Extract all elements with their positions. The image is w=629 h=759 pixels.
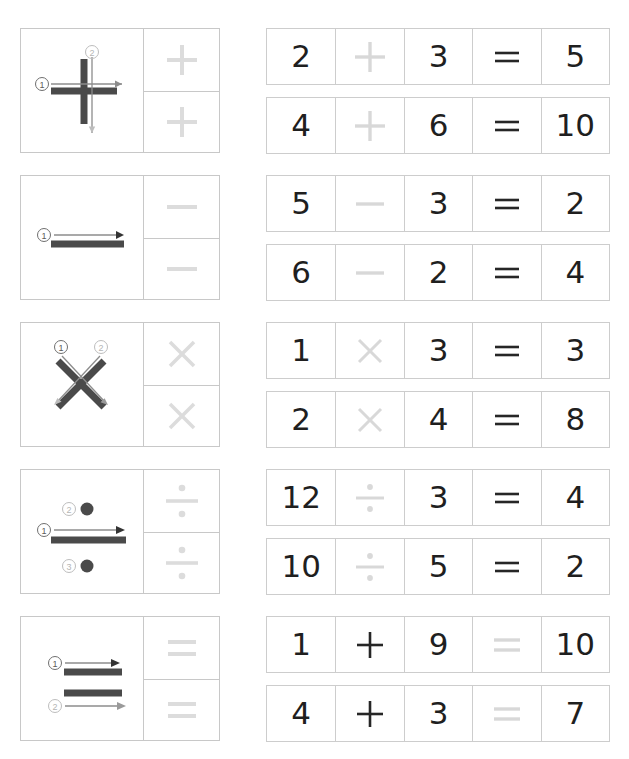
- equation-operator-minus-traced[interactable]: [335, 176, 403, 231]
- trace-cell[interactable]: [144, 176, 219, 238]
- equation-operand-right[interactable]: 3: [404, 686, 472, 741]
- equation-operand-right[interactable]: 2: [404, 245, 472, 300]
- equation-operand-right[interactable]: 3: [404, 29, 472, 84]
- equation-result[interactable]: 4: [541, 470, 609, 525]
- equation-operand-left[interactable]: 6: [267, 245, 335, 300]
- equation-result[interactable]: 7: [541, 686, 609, 741]
- equation-operator-plus-traced[interactable]: [335, 29, 403, 84]
- equation-operand-left[interactable]: 1: [267, 617, 335, 672]
- trace-cell[interactable]: [144, 470, 219, 532]
- equation-equals-sign: [472, 470, 540, 525]
- stroke-label: 1: [58, 343, 63, 353]
- equation-operand-left[interactable]: 2: [267, 29, 335, 84]
- equation-equals-sign: [472, 392, 540, 447]
- stroke-order-card-divide: 1 2 3: [20, 469, 220, 594]
- trace-cell[interactable]: [144, 323, 219, 385]
- worksheet-row-divide: 1 2 3: [0, 469, 629, 597]
- trace-column-multiply: [144, 323, 219, 446]
- equation-group-minus: 5 3 2 6: [266, 175, 610, 301]
- equation-operand-right[interactable]: 4: [404, 392, 472, 447]
- equation-operator-plus-traced[interactable]: [335, 98, 403, 153]
- worksheet-row-multiply: 1 2: [0, 322, 629, 450]
- equation-operand-right[interactable]: 5: [404, 539, 472, 594]
- equation-result[interactable]: 5: [541, 29, 609, 84]
- equation-operand-right[interactable]: 3: [404, 176, 472, 231]
- equation-equals-sign: [472, 539, 540, 594]
- stroke-diagram-plus: 1 2: [21, 29, 144, 152]
- worksheet-row-minus: 1 5: [0, 175, 629, 303]
- equation-operand-right[interactable]: 6: [404, 98, 472, 153]
- trace-column-minus: [144, 176, 219, 299]
- equation-equals-sign-traced[interactable]: [472, 617, 540, 672]
- stroke-label: 2: [52, 702, 57, 712]
- equation-operator-multiply-traced[interactable]: [335, 392, 403, 447]
- equation-result[interactable]: 2: [541, 539, 609, 594]
- trace-cell[interactable]: [144, 617, 219, 679]
- equation-operator-divide-traced[interactable]: [335, 470, 403, 525]
- stroke-diagram-minus: 1: [21, 176, 144, 299]
- stroke-order-card-multiply: 1 2: [20, 322, 220, 447]
- equation-result[interactable]: 2: [541, 176, 609, 231]
- divide-dot-lower: [81, 560, 94, 573]
- equation-operand-right[interactable]: 9: [404, 617, 472, 672]
- equation-operand-left[interactable]: 4: [267, 98, 335, 153]
- trace-cell[interactable]: [144, 532, 219, 594]
- equation-row: 4 3 7: [266, 685, 610, 742]
- stroke-diagram-equals: 1 2: [21, 617, 144, 740]
- equation-result[interactable]: 3: [541, 323, 609, 378]
- equation-operand-left[interactable]: 10: [267, 539, 335, 594]
- equation-row: 12 3 4: [266, 469, 610, 526]
- equation-group-equals: 1 9 10 4: [266, 616, 610, 742]
- stroke-order-card-plus: 1 2: [20, 28, 220, 153]
- equation-row: 10 5 2: [266, 538, 610, 595]
- equation-group-multiply: 1 3 3 2: [266, 322, 610, 448]
- equation-equals-sign: [472, 245, 540, 300]
- equation-operand-right[interactable]: 3: [404, 323, 472, 378]
- equation-operator-minus-traced[interactable]: [335, 245, 403, 300]
- equation-operator-divide-traced[interactable]: [335, 539, 403, 594]
- equation-group-plus: 2 3 5 4: [266, 28, 610, 154]
- stroke-label: 1: [52, 659, 57, 669]
- equation-row: 6 2 4: [266, 244, 610, 301]
- equation-equals-sign: [472, 29, 540, 84]
- equation-row: 2 3 5: [266, 28, 610, 85]
- worksheet-page: 1 2: [0, 0, 629, 759]
- trace-column-plus: [144, 29, 219, 152]
- equation-row: 4 6 10: [266, 97, 610, 154]
- equation-equals-sign: [472, 98, 540, 153]
- equation-result[interactable]: 10: [541, 98, 609, 153]
- equation-equals-sign-traced[interactable]: [472, 686, 540, 741]
- equation-result[interactable]: 4: [541, 245, 609, 300]
- equation-operand-left[interactable]: 5: [267, 176, 335, 231]
- worksheet-row-equals: 1 2: [0, 616, 629, 744]
- trace-cell[interactable]: [144, 29, 219, 91]
- equation-row: 1 9 10: [266, 616, 610, 673]
- equation-operand-left[interactable]: 4: [267, 686, 335, 741]
- trace-cell[interactable]: [144, 91, 219, 153]
- equation-result[interactable]: 8: [541, 392, 609, 447]
- stroke-label: 1: [41, 526, 46, 536]
- trace-cell[interactable]: [144, 238, 219, 300]
- trace-cell[interactable]: [144, 385, 219, 447]
- equation-operator-plus: [335, 686, 403, 741]
- equation-result[interactable]: 10: [541, 617, 609, 672]
- equation-row: 2 4 8: [266, 391, 610, 448]
- equation-equals-sign: [472, 176, 540, 231]
- stroke-diagram-multiply: 1 2: [21, 323, 144, 446]
- stroke-diagram-divide: 1 2 3: [21, 470, 144, 593]
- equation-operator-multiply-traced[interactable]: [335, 323, 403, 378]
- equation-operand-left[interactable]: 12: [267, 470, 335, 525]
- stroke-label: 2: [98, 343, 103, 353]
- equation-operand-left[interactable]: 1: [267, 323, 335, 378]
- equation-operand-left[interactable]: 2: [267, 392, 335, 447]
- stroke-order-card-minus: 1: [20, 175, 220, 300]
- trace-column-equals: [144, 617, 219, 740]
- equation-operand-right[interactable]: 3: [404, 470, 472, 525]
- equation-group-divide: 12 3 4 10: [266, 469, 610, 595]
- stroke-label: 2: [89, 48, 94, 58]
- equation-row: 1 3 3: [266, 322, 610, 379]
- worksheet-row-plus: 1 2: [0, 28, 629, 156]
- trace-cell[interactable]: [144, 679, 219, 741]
- stroke-label: 2: [66, 505, 71, 515]
- equation-equals-sign: [472, 323, 540, 378]
